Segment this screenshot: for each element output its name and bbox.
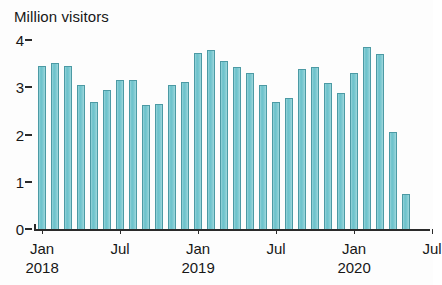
y-axis-tick-label: 4 [16,32,24,49]
x-axis-tick-mark [120,229,121,234]
bar [298,69,306,229]
x-axis-tick-mark [198,229,199,234]
x-axis-tick-label: Jul [267,240,286,258]
bar [77,85,85,229]
bar [129,80,137,229]
bar [376,54,384,229]
y-axis-tick-mark [25,181,32,183]
bar [51,63,59,229]
x-axis-line [34,229,430,231]
bar [168,85,176,229]
x-axis-year-label: 2020 [337,259,370,277]
y-axis-tick-label: 0 [16,221,24,238]
y-axis-tick-mark [25,86,32,88]
bar [220,61,228,229]
bar [389,132,397,229]
bar [64,66,72,229]
bar [402,194,410,229]
y-axis-tick-mark [25,134,32,136]
x-axis-year-label: 2018 [25,259,58,277]
bar [103,90,111,229]
bar [246,73,254,229]
bar [324,83,332,229]
x-axis-tick-label: Jul [423,240,442,258]
bar [337,93,345,229]
y-axis-tick-mark [25,228,32,230]
y-axis-tick-mark [25,39,32,41]
bar [181,82,189,229]
bar [285,98,293,229]
y-axis-tick-label: 1 [16,173,24,190]
x-axis-year-label: 2019 [181,259,214,277]
x-axis-tick-mark [42,229,43,234]
x-axis-tick-mark [354,229,355,234]
x-axis-tick-label: Jan [342,240,366,258]
bar [207,50,215,229]
x-axis-tick-label: Jan [30,240,54,258]
bar [38,66,46,229]
x-axis-tick-label: Jan [186,240,210,258]
x-axis-tick-mark [432,229,433,234]
bar [350,73,358,229]
x-axis-tick-label: Jul [111,240,130,258]
bar [259,85,267,229]
bar [272,102,280,229]
bar [116,80,124,229]
bar [311,67,319,229]
y-axis-tick-label: 2 [16,126,24,143]
bar [90,102,98,229]
x-axis-origin-cap [34,224,36,231]
bar [233,67,241,229]
bar [363,47,371,229]
x-axis-tick-mark [276,229,277,234]
plot-area [36,40,430,229]
bar [194,53,202,229]
bar [142,105,150,229]
bar [155,104,163,229]
bars-layer [36,40,430,229]
y-axis-tick-label: 3 [16,79,24,96]
